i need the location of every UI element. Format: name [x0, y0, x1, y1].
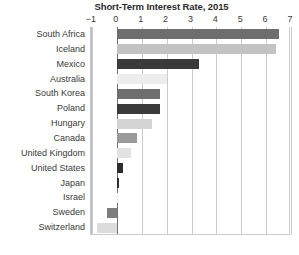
x-axis-tick-labels: −101234567: [0, 14, 299, 26]
gridline-7: [291, 27, 292, 235]
bar-israel: [117, 193, 118, 203]
x-tick-label-2: 2: [163, 14, 168, 24]
x-tick-label-1: 1: [138, 14, 143, 24]
x-tick-label-5: 5: [238, 14, 243, 24]
bar-hungary: [117, 119, 152, 129]
x-tick-label-4: 4: [213, 14, 218, 24]
bar-canada: [117, 133, 137, 143]
bar-united-kingdom: [117, 148, 131, 158]
y-axis-label-israel: Israel: [63, 193, 85, 202]
y-axis-label-united-kingdom: United Kingdom: [21, 149, 85, 158]
bar-switzerland: [97, 223, 117, 233]
y-axis-label-australia: Australia: [50, 75, 85, 84]
y-axis-label-japan: Japan: [60, 179, 85, 188]
bar-japan: [117, 178, 119, 188]
y-axis-label-poland: Poland: [57, 104, 85, 113]
y-axis-label-hungary: Hungary: [51, 119, 85, 128]
bar-mexico: [117, 59, 199, 69]
x-tick-label-3: 3: [188, 14, 193, 24]
x-axis-baseline: [91, 234, 290, 235]
bar-series: [92, 27, 289, 235]
bar-south-africa: [117, 29, 279, 39]
bar-united-states: [117, 163, 123, 173]
x-tick-label-neg1: −1: [86, 14, 96, 24]
y-axis-label-south-africa: South Africa: [36, 30, 85, 39]
bar-iceland: [117, 44, 276, 54]
y-axis-label-mexico: Mexico: [56, 60, 85, 69]
y-axis-label-switzerland: Switzerland: [38, 223, 85, 232]
bar-sweden: [107, 208, 117, 218]
bar-south-korea: [117, 89, 161, 99]
y-axis-category-labels: South AfricaIcelandMexicoAustraliaSouth …: [0, 27, 88, 235]
y-axis-label-united-states: United States: [31, 164, 85, 173]
y-axis-label-canada: Canada: [53, 134, 85, 143]
x-tick-label-7: 7: [287, 14, 292, 24]
x-tick-label-0: 0: [113, 14, 118, 24]
y-axis-label-south-korea: South Korea: [35, 89, 85, 98]
chart-title: Short-Term Interest Rate, 2015: [0, 1, 299, 12]
chart-figure: Short-Term Interest Rate, 2015 −10123456…: [0, 0, 299, 255]
y-axis-label-sweden: Sweden: [52, 208, 85, 217]
y-axis-label-iceland: Iceland: [56, 45, 85, 54]
bar-australia: [117, 74, 167, 84]
bar-poland: [117, 104, 161, 114]
plot-area: [91, 27, 290, 235]
x-tick-label-6: 6: [263, 14, 268, 24]
